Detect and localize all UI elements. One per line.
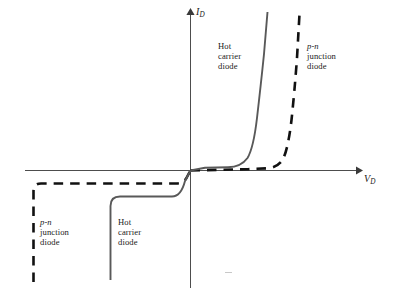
annotation-line: carrier (118, 227, 141, 237)
annotation-line: p-n (307, 41, 336, 51)
y-axis-arrowhead (186, 8, 194, 15)
annotation-line: diode (118, 237, 141, 247)
y-axis-label: ID (196, 6, 205, 17)
series-pn-junction-diode (34, 14, 300, 282)
x-axis-arrowhead (356, 166, 363, 174)
x-axis-subscript: D (370, 178, 375, 186)
annotation-pn-junction-forward: p-n junction diode (307, 41, 336, 72)
annotation-line: junction (40, 227, 69, 237)
annotation-line: Hot (218, 41, 241, 51)
annotation-line: Hot (118, 217, 141, 227)
x-axis-label: VD (364, 173, 375, 184)
y-axis-symbol: I (196, 6, 199, 17)
annotation-line: diode (40, 237, 69, 247)
annotation-line: carrier (218, 51, 241, 61)
diode-iv-characteristic-figure: Hot carrier diode p-n junction diode p-n… (0, 0, 403, 302)
y-axis-subscript: D (200, 11, 205, 19)
annotation-hot-carrier-forward: Hot carrier diode (218, 41, 241, 72)
annotation-line: junction (307, 51, 336, 61)
hot-carrier-forward-branch (191, 12, 268, 171)
annotation-line: diode (307, 61, 336, 71)
annotation-line: p-n (40, 217, 69, 227)
pn-junction-forward-branch (191, 14, 300, 171)
annotation-hot-carrier-reverse: Hot carrier diode (118, 217, 141, 248)
iv-curve-plot (0, 0, 403, 302)
annotation-line: diode (218, 61, 241, 71)
annotation-pn-junction-reverse: p-n junction diode (40, 217, 69, 248)
